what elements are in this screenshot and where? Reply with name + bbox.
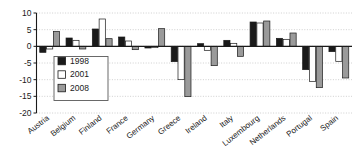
bar [303, 46, 309, 69]
bar [276, 38, 282, 46]
legend-swatch [58, 84, 66, 92]
legend-swatch [58, 71, 66, 79]
y-axis-tick-label: -5 [24, 58, 32, 68]
bar [329, 46, 335, 51]
chart-canvas: 1050-5-10-15-20 AustriaBelgiumFinlandFra… [0, 0, 358, 165]
y-axis-tick-label: -10 [19, 75, 32, 85]
bar [250, 22, 256, 46]
bar [204, 46, 210, 50]
bar [119, 37, 125, 46]
bar [159, 29, 165, 47]
bar [178, 46, 184, 79]
bar [125, 41, 131, 46]
bar [73, 40, 79, 46]
bar [264, 21, 270, 46]
bar [92, 29, 98, 46]
bar-chart: 1050-5-10-15-20 AustriaBelgiumFinlandFra… [0, 0, 358, 165]
legend-label: 2008 [70, 83, 89, 93]
bar [66, 38, 72, 46]
y-axis-tick-label: 0 [27, 41, 32, 51]
bar [185, 46, 191, 96]
bar [40, 46, 46, 52]
y-axis-tick-label: -15 [19, 91, 32, 101]
legend-swatch [58, 57, 66, 65]
chart-legend: 199820012008 [54, 56, 108, 101]
bar [106, 39, 112, 47]
bar [99, 19, 105, 46]
bar [224, 40, 230, 46]
y-axis-tick-label: 10 [22, 8, 32, 18]
bar [316, 46, 322, 87]
y-axis-tick-label: -20 [19, 108, 32, 118]
bar [237, 46, 243, 56]
bar [343, 46, 349, 78]
bar [257, 23, 263, 46]
bar [53, 31, 59, 46]
bar [336, 46, 342, 61]
bar [211, 46, 217, 65]
bar [309, 46, 315, 81]
y-axis-tick-label: 5 [27, 25, 32, 35]
bar [171, 46, 177, 61]
legend-label: 2001 [70, 69, 89, 79]
bar [283, 39, 289, 46]
bar [290, 33, 296, 46]
legend-label: 1998 [70, 56, 89, 66]
